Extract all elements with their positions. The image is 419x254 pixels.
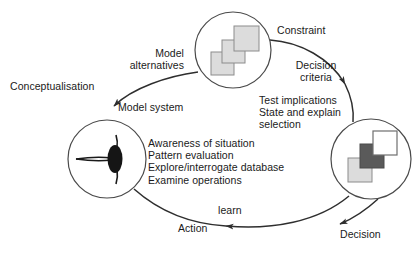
label-test-implications-block: Test implications State and explain sele… (259, 94, 341, 131)
label-decision-criteria: Decision criteria (276, 59, 356, 83)
arc-right-continuation (345, 84, 353, 122)
decision-node (331, 119, 411, 199)
arrow-learn-action-path (226, 196, 349, 227)
label-decision: Decision (340, 228, 381, 240)
square-upper-right (373, 131, 397, 155)
label-constraint: Constraint (277, 24, 325, 36)
arrow-decision-path (340, 199, 378, 224)
eye-pupil (108, 145, 123, 173)
arc-bottom-left-segment (134, 189, 226, 226)
observation-eye-node (68, 120, 146, 198)
diagram-canvas: Conceptualisation Model alternatives Mod… (0, 0, 419, 254)
model-alternatives-node (195, 12, 271, 88)
diagram-graphics (0, 0, 419, 254)
label-model-system: Model system (118, 101, 183, 113)
label-learn: learn (218, 204, 242, 216)
label-action: Action (178, 222, 207, 234)
label-conceptualisation: Conceptualisation (10, 80, 94, 92)
label-model-alternatives: Model alternatives (78, 47, 184, 71)
square-upper-right (234, 26, 259, 51)
label-situation-awareness-block: Awareness of situation Pattern evaluatio… (148, 137, 284, 186)
